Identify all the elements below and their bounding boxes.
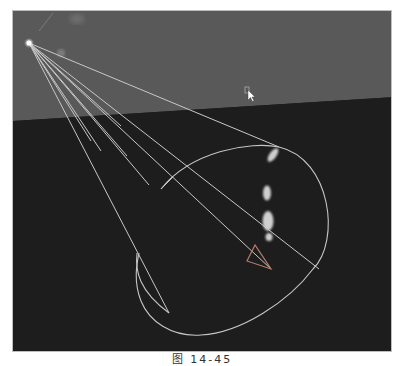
background-blob (70, 14, 84, 24)
figure-caption: 图 14-45 (0, 354, 404, 366)
viewport-scene (13, 11, 392, 352)
3d-viewport[interactable] (12, 10, 392, 352)
floor-plane (13, 97, 392, 352)
